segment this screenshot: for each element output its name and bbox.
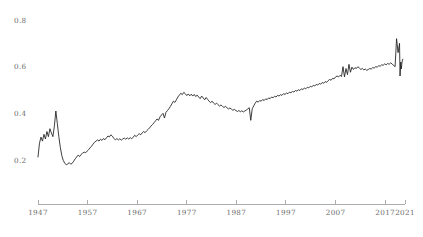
x-axis-tick-label: 1967: [127, 208, 147, 217]
y-axis-tick-label: 0.4: [14, 109, 27, 118]
y-axis-tick-label: 0.6: [14, 62, 27, 71]
x-axis-tick-marks: [38, 200, 405, 205]
x-axis-tick-label: 1977: [177, 208, 197, 217]
x-axis-tick-label: 1997: [276, 208, 296, 217]
y-axis-tick-label: 0.2: [14, 156, 26, 165]
x-axis-tick-label: 2007: [326, 208, 346, 217]
data-series-line: [38, 39, 403, 165]
chart-container: 0.20.40.60.8 194719571967197719871997200…: [0, 0, 423, 237]
line-chart: 0.20.40.60.8 194719571967197719871997200…: [0, 0, 423, 237]
y-axis-tick-labels: 0.20.40.60.8: [14, 16, 27, 165]
x-axis-tick-labels: 194719571967197719871997200720172021: [28, 208, 415, 217]
x-axis-tick-label: 1947: [28, 208, 48, 217]
x-axis: 194719571967197719871997200720172021: [28, 200, 415, 218]
x-axis-tick-label: 2021: [395, 208, 415, 217]
x-axis-tick-label: 1987: [227, 208, 247, 217]
y-axis-tick-label: 0.8: [14, 16, 27, 25]
x-axis-tick-label: 1957: [78, 208, 98, 217]
x-axis-tick-label: 2017: [375, 208, 395, 217]
